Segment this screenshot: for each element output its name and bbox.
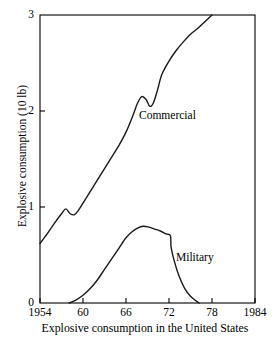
plot-frame — [40, 15, 255, 303]
series-label-military: Military — [176, 251, 214, 263]
series-label-commercial: Commercial — [139, 109, 196, 121]
x-tick-label: 1954 — [20, 307, 60, 319]
plot-canvas — [0, 0, 277, 347]
x-tick-label: 72 — [149, 307, 189, 319]
figure-caption: Explosive consumption in the United Stat… — [18, 321, 272, 336]
x-tick-label: 60 — [63, 307, 103, 319]
x-tick-label: 78 — [192, 307, 232, 319]
y-tick-label: 3 — [8, 9, 34, 21]
x-tick-label: 66 — [106, 307, 146, 319]
chart-figure: 0123 1954606672781984 Explosive consumpt… — [0, 0, 277, 347]
axes-frame — [40, 15, 255, 303]
x-tick-label: 1984 — [235, 307, 275, 319]
series-curve-military — [69, 226, 199, 303]
series-curve-commercial — [40, 15, 212, 243]
y-axis-title: Explosive consumption (10 lb) — [16, 71, 28, 241]
y-tick-marks — [40, 111, 45, 207]
